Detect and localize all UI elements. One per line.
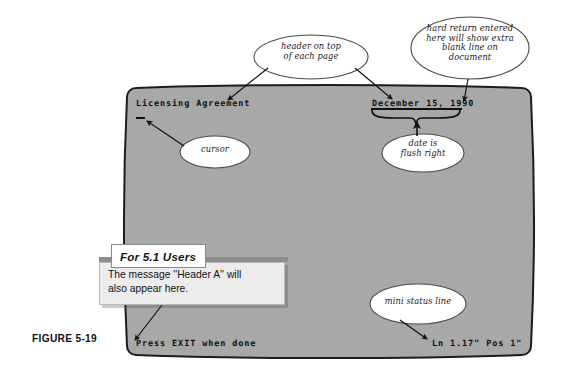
- annotation-hard-return: hard return entered here will show extra…: [414, 24, 526, 62]
- screen-header-text: Licensing Agreement: [136, 99, 250, 109]
- screen-status-right: Ln 1.17" Pos 1": [432, 339, 522, 349]
- annotation-mini-status-line: mini status line: [371, 297, 465, 307]
- callout-title-text: For 5.1 Users: [120, 250, 196, 263]
- annotation-date-flush-right: date is flush right: [384, 139, 462, 158]
- callout-title-box: For 5.1 Users: [111, 244, 206, 268]
- terminal-screen: [124, 85, 534, 358]
- annotation-cursor: cursor: [181, 145, 249, 155]
- for-5-1-users-callout: The message ''Header A'' will also appea…: [99, 244, 288, 304]
- callout-body-text: The message ''Header A'' will also appea…: [108, 268, 280, 295]
- annotation-header-on-top: header on top of each page: [259, 42, 363, 61]
- screen-date-text: December 15, 1990: [372, 99, 474, 109]
- terminal-cursor: [136, 117, 145, 119]
- callout-body: The message ''Header A'' will also appea…: [99, 262, 285, 305]
- figure-caption: FIGURE 5-19: [32, 333, 97, 344]
- figure-canvas: Licensing Agreement December 15, 1990 Pr…: [0, 0, 561, 380]
- screen-status-left: Press EXIT when done: [136, 339, 256, 349]
